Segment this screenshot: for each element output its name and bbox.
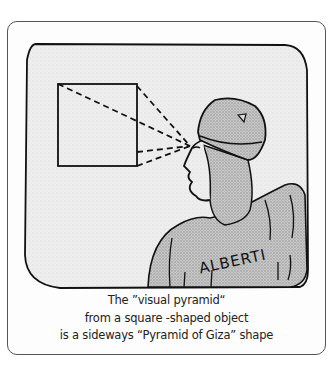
caption-line-1: The ”visual pyramid“	[7, 292, 326, 310]
figure-caption: The ”visual pyramid“ from a square -shap…	[7, 292, 326, 345]
caption-line-3: is a sideways “Pyramid of Giza” shape	[7, 327, 326, 345]
caption-line-2: from a square -shaped object	[7, 310, 326, 328]
